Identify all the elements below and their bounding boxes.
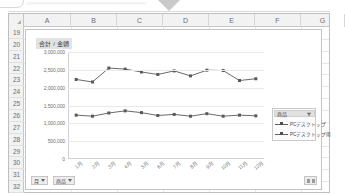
series-marker — [238, 79, 241, 82]
column-header-a[interactable]: A — [24, 14, 71, 27]
series-marker — [75, 114, 78, 117]
y-axis-tick-label: 3,000,000 — [44, 49, 65, 55]
series-marker — [91, 80, 94, 83]
x-axis-tick-label: 7月 — [171, 160, 181, 170]
series-marker — [254, 77, 257, 80]
chevron-down-icon — [41, 179, 45, 182]
row-header-32[interactable]: 32 — [9, 181, 24, 193]
expand-collapse-button[interactable] — [304, 176, 317, 185]
x-axis-tick-label: 10月 — [219, 159, 231, 171]
y-axis-tick-label: 1,000,000 — [44, 120, 65, 126]
row-header-28[interactable]: 28 — [9, 134, 24, 146]
x-axis-tick-label: 5月 — [139, 160, 149, 170]
series-marker — [156, 114, 159, 117]
series-marker — [254, 114, 257, 117]
row-header-25[interactable]: 25 — [9, 98, 24, 110]
column-header-d[interactable]: D — [163, 14, 209, 27]
chart-series — [75, 109, 258, 117]
legend-item[interactable]: PCデスクトップ用 — [275, 130, 330, 138]
x-axis-tick-label: 4月 — [122, 160, 132, 170]
expand-collapse-icon — [307, 179, 310, 183]
x-axis-tick-label: 12月 — [252, 159, 264, 171]
chart-gridline — [68, 70, 264, 71]
column-header-f[interactable]: F — [255, 14, 301, 27]
series-marker — [238, 114, 241, 117]
column-header-b[interactable]: B — [71, 14, 117, 27]
series-marker — [75, 78, 78, 81]
slicer-header-label: 商品 — [277, 111, 287, 117]
select-all-corner-icon — [17, 20, 21, 24]
series-marker — [222, 115, 225, 118]
filter-dropdown-icon[interactable] — [306, 112, 312, 117]
arrow-down-icon — [156, 0, 182, 11]
chart-gridline — [68, 52, 264, 53]
legend-slicer[interactable]: 商品 PCデスクトップ PCデスクトップ用 — [272, 108, 316, 141]
row-header-19[interactable]: 19 — [9, 27, 24, 39]
series-marker — [140, 111, 143, 114]
column-header-e[interactable]: E — [209, 14, 255, 27]
series-marker — [140, 70, 143, 73]
x-axis-tick-label: 11月 — [236, 159, 248, 171]
series-marker — [173, 113, 176, 116]
chevron-down-icon — [68, 179, 72, 182]
chart-gridline — [68, 106, 264, 107]
pivot-field-label: 商品 — [56, 177, 66, 184]
strip-divider — [8, 11, 330, 12]
series-marker — [189, 74, 192, 77]
toolbar-line — [26, 2, 146, 5]
y-axis-tick-label: 2,500,000 — [44, 67, 65, 73]
series-marker — [156, 73, 159, 76]
x-axis-tick-label: 6月 — [155, 160, 165, 170]
row-header-20[interactable]: 20 — [9, 39, 24, 51]
series-marker — [189, 115, 192, 118]
legend-marker-icon — [275, 121, 288, 127]
chart-title: 合計 / 金額 — [36, 38, 72, 49]
y-axis-tick-label: 2,000,000 — [44, 85, 65, 91]
legend-item[interactable]: PCデスクトップ — [275, 120, 326, 128]
legend-item-label: PCデスクトップ — [290, 121, 326, 127]
chart-gridline — [68, 88, 264, 89]
series-marker — [205, 112, 208, 115]
y-axis-tick-label: 0 — [62, 156, 65, 162]
row-header-30[interactable]: 30 — [9, 157, 24, 169]
row-header-26[interactable]: 26 — [9, 110, 24, 122]
chart-gridline — [68, 123, 264, 124]
x-axis-tick-label: 2月 — [90, 160, 100, 170]
series-marker — [124, 109, 127, 112]
row-header-31[interactable]: 31 — [9, 169, 24, 181]
x-axis-tick-label: 8月 — [188, 160, 198, 170]
legend-marker-icon — [275, 131, 288, 137]
x-axis-tick-label: 3月 — [106, 160, 116, 170]
row-header-29[interactable]: 29 — [9, 146, 24, 158]
x-axis-tick-label: 9月 — [204, 160, 214, 170]
row-header-24[interactable]: 24 — [9, 86, 24, 98]
y-axis-tick-label: 1,500,000 — [44, 103, 65, 109]
pivot-field-label: 月 — [34, 177, 39, 184]
row-header-27[interactable]: 27 — [9, 122, 24, 134]
plot-area: 0500,0001,000,0001,500,0002,000,0002,500… — [68, 52, 264, 159]
spreadsheet: ABCDEFG 1920212223242526272829303132 合計 … — [8, 13, 330, 193]
row-header-column: 1920212223242526272829303132 — [9, 27, 24, 193]
expand-collapse-icon — [312, 179, 315, 183]
series-marker — [91, 115, 94, 118]
row-header-23[interactable]: 23 — [9, 74, 24, 86]
series-marker — [107, 111, 110, 114]
pivot-field-button-month[interactable]: 月 — [31, 176, 48, 185]
toolbar-pill — [0, 0, 24, 8]
column-header-c[interactable]: C — [117, 14, 163, 27]
column-header-g[interactable]: G — [301, 14, 345, 27]
select-all-corner[interactable] — [9, 14, 24, 27]
x-axis-tick-label: 1月 — [73, 160, 83, 170]
top-strip — [0, 0, 336, 13]
row-header-21[interactable]: 21 — [9, 51, 24, 63]
y-axis-tick-label: 500,000 — [48, 138, 65, 144]
pivot-chart[interactable]: 合計 / 金額 0500,0001,000,0001,500,0002,000,… — [25, 29, 322, 190]
pivot-field-button-product[interactable]: 商品 — [53, 176, 75, 185]
legend-item-label: PCデスクトップ用 — [290, 131, 330, 137]
slicer-header[interactable]: 商品 — [274, 110, 315, 117]
chart-gridline — [68, 141, 264, 142]
row-header-22[interactable]: 22 — [9, 63, 24, 75]
column-header-row: ABCDEFG — [9, 14, 329, 27]
series-line — [76, 111, 256, 116]
